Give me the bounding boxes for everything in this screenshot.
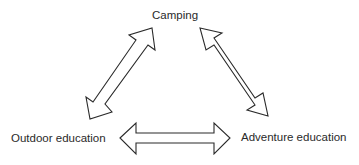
relationship-diagram: Camping Outdoor education Adventure educ… xyxy=(0,0,359,165)
node-adventure-education: Adventure education xyxy=(241,132,347,144)
double-arrow-camping-adventure-icon xyxy=(200,28,268,116)
double-arrow-outdoor-adventure-icon xyxy=(120,123,230,154)
node-camping: Camping xyxy=(152,10,198,22)
double-arrow-camping-outdoor-icon xyxy=(86,28,155,119)
node-outdoor-education: Outdoor education xyxy=(11,133,106,145)
